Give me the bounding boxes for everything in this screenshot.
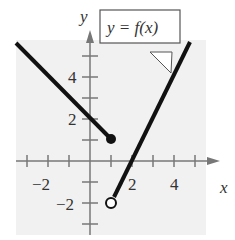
y-axis-arrow-icon [86,30,94,43]
y-axis-label: y [78,7,88,26]
graph: y = f(x) x y −2 2 4 −2 2 4 [0,0,235,240]
plot-svg: y = f(x) x y −2 2 4 −2 2 4 [0,0,235,240]
y-tick-label-2: 2 [68,110,77,129]
open-dot [106,198,116,208]
x-tick-label-neg2: −2 [32,175,50,194]
x-tick-label-2: 2 [128,175,137,194]
x-axis-label: x [219,178,228,197]
y-tick-label-4: 4 [68,68,77,87]
function-label: y = f(x) [105,18,158,37]
y-tick-label-neg2: −2 [56,195,74,214]
x-axis-arrow-icon [207,157,220,165]
x-tick-label-4: 4 [170,175,179,194]
closed-dot [106,134,116,144]
